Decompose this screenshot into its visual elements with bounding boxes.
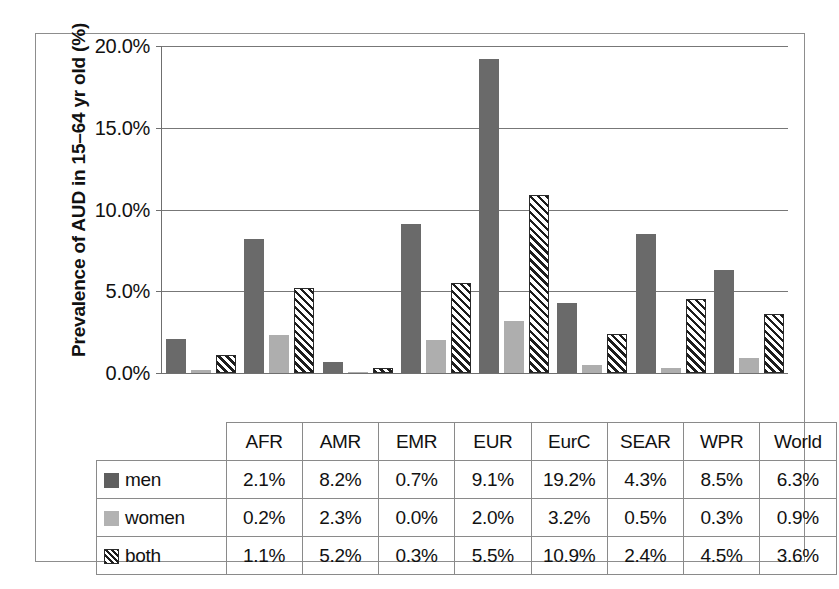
table-cell-both-world: 3.6% [760, 537, 836, 575]
bar-group-eur [397, 46, 475, 373]
table-row: men2.1%8.2%0.7%9.1%19.2%4.3%8.5%6.3% [97, 461, 837, 499]
bar-both-wpr [686, 299, 706, 373]
y-axis-tick-label: 0.0% [106, 362, 150, 385]
table-cell-both-emr: 0.3% [379, 537, 455, 575]
table-col-header-eurc: EurC [531, 423, 607, 461]
bar-men-eur [401, 224, 421, 373]
bar-both-amr [294, 288, 314, 373]
bar-women-wpr [661, 368, 681, 373]
table-cell-men-sear: 4.3% [607, 461, 683, 499]
table-cell-men-amr: 8.2% [302, 461, 378, 499]
table-cell-both-eurc: 10.9% [531, 537, 607, 575]
bar-women-eur [426, 340, 446, 373]
legend-label-men: men [125, 469, 161, 490]
bar-both-sear [607, 334, 627, 373]
table-cell-men-afr: 2.1% [226, 461, 302, 499]
table-cell-both-afr: 1.1% [226, 537, 302, 575]
table-cell-men-emr: 0.7% [379, 461, 455, 499]
table-col-header-world: World [760, 423, 836, 461]
bar-group-afr [162, 46, 240, 373]
table-cell-men-wpr: 8.5% [684, 461, 760, 499]
table-cell-women-emr: 0.0% [379, 499, 455, 537]
bar-men-afr [166, 339, 186, 373]
y-axis-tick-mark [156, 373, 162, 374]
figure-frame: Prevalence of AUD in 15–64 yr old (%) 0.… [35, 33, 805, 562]
both-hatch-swatch-icon [104, 549, 119, 564]
bar-men-eurc [479, 59, 499, 373]
bar-men-amr [244, 239, 264, 373]
bar-men-sear [557, 303, 577, 373]
table-cell-both-amr: 5.2% [302, 537, 378, 575]
bar-men-wpr [636, 234, 656, 373]
legend-cell-women: women [97, 499, 227, 537]
table-cell-men-eurc: 19.2% [531, 461, 607, 499]
legend-cell-both: both [97, 537, 227, 575]
table-col-header-amr: AMR [302, 423, 378, 461]
bar-group-wpr [632, 46, 710, 373]
bar-group-sear [553, 46, 631, 373]
y-axis-tick-labels: 0.0%5.0%10.0%15.0%20.0% [66, 46, 156, 376]
table-header-row: AFRAMREMREUREurCSEARWPRWorld [97, 423, 837, 461]
bar-men-emr [323, 362, 343, 373]
y-axis-tick-label: 5.0% [106, 280, 150, 303]
men-swatch-icon [104, 473, 119, 488]
table-body: men2.1%8.2%0.7%9.1%19.2%4.3%8.5%6.3%wome… [97, 461, 837, 575]
table-cell-men-eur: 9.1% [455, 461, 531, 499]
bar-group-amr [240, 46, 318, 373]
chart-plot-region: 0.0%5.0%10.0%15.0%20.0% [161, 46, 791, 421]
table-col-header-afr: AFR [226, 423, 302, 461]
bar-both-eurc [529, 195, 549, 373]
table-cell-women-amr: 2.3% [302, 499, 378, 537]
bar-women-amr [269, 335, 289, 373]
bar-group-emr [319, 46, 397, 373]
legend-label-both: both [125, 545, 161, 566]
table-cell-women-eur: 2.0% [455, 499, 531, 537]
bar-women-world [739, 358, 759, 373]
bar-group-world [710, 46, 788, 373]
legend-label-women: women [125, 507, 185, 528]
bar-women-afr [191, 370, 211, 373]
y-axis-tick-label: 10.0% [95, 198, 150, 221]
table-cell-women-afr: 0.2% [226, 499, 302, 537]
table-cell-both-sear: 2.4% [607, 537, 683, 575]
table-corner-cell [97, 423, 227, 461]
bar-both-eur [451, 283, 471, 373]
y-axis-tick-label: 20.0% [95, 35, 150, 58]
y-axis-tick-label: 15.0% [95, 116, 150, 139]
table-col-header-wpr: WPR [684, 423, 760, 461]
bar-both-afr [216, 355, 236, 373]
bar-group-eurc [475, 46, 553, 373]
plot-area [161, 46, 788, 374]
bar-groups [162, 46, 788, 373]
table-col-header-emr: EMR [379, 423, 455, 461]
table-cell-women-wpr: 0.3% [684, 499, 760, 537]
bar-both-world [764, 314, 784, 373]
bar-women-sear [582, 365, 602, 373]
bar-women-emr [348, 372, 368, 373]
table-cell-both-eur: 5.5% [455, 537, 531, 575]
bar-both-emr [373, 368, 393, 373]
table-cell-women-eurc: 3.2% [531, 499, 607, 537]
table-cell-men-world: 6.3% [760, 461, 836, 499]
table-row: women0.2%2.3%0.0%2.0%3.2%0.5%0.3%0.9% [97, 499, 837, 537]
table-col-header-sear: SEAR [607, 423, 683, 461]
bar-women-eurc [504, 321, 524, 373]
table-row: both1.1%5.2%0.3%5.5%10.9%2.4%4.5%3.6% [97, 537, 837, 575]
bar-men-world [714, 270, 734, 373]
data-table: AFRAMREMREUREurCSEARWPRWorld men2.1%8.2%… [96, 422, 837, 575]
table-col-header-eur: EUR [455, 423, 531, 461]
women-swatch-icon [104, 511, 119, 526]
table-cell-both-wpr: 4.5% [684, 537, 760, 575]
table-cell-women-sear: 0.5% [607, 499, 683, 537]
table-cell-women-world: 0.9% [760, 499, 836, 537]
table-head: AFRAMREMREUREurCSEARWPRWorld [97, 423, 837, 461]
legend-cell-men: men [97, 461, 227, 499]
